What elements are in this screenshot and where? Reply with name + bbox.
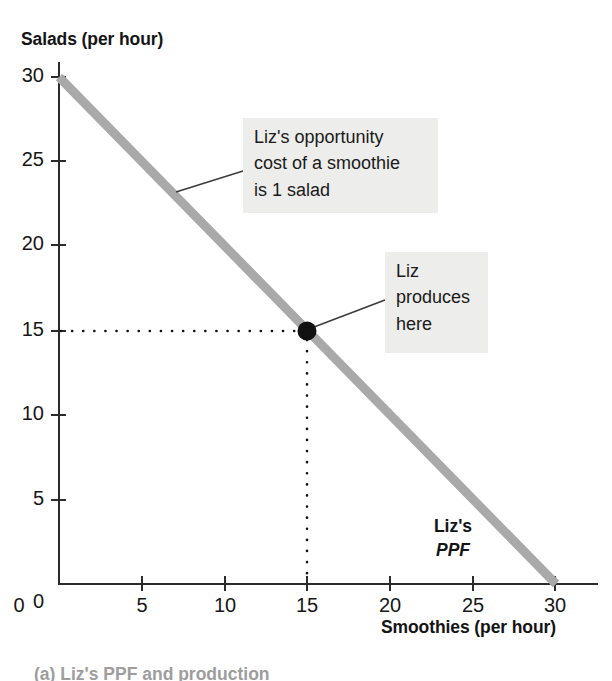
produces-here-line-1: Liz <box>396 258 477 284</box>
x-tick-15 <box>306 576 308 591</box>
produces-here-leader-line <box>314 300 385 327</box>
figure-caption: (a) Liz's PPF and production <box>34 664 270 681</box>
x-axis-title: Smoothies (per hour) <box>381 617 556 638</box>
opportunity-cost-leader-line <box>176 171 243 192</box>
y-tick-label-20: 20 <box>2 232 44 255</box>
x-tick-label-15: 15 <box>287 594 327 617</box>
production-point-marker[interactable] <box>298 322 317 341</box>
ppf-label-owner: Liz's <box>414 514 492 538</box>
y-tick-5 <box>51 499 66 501</box>
ppf-label-abbrev: PPF <box>414 538 492 562</box>
ppf-figure: Salads (per hour) Smoothies (per hour) 3… <box>0 0 612 681</box>
y-tick-20 <box>51 244 66 246</box>
x-tick-20 <box>389 576 391 591</box>
x-tick-5 <box>141 576 143 591</box>
x-tick-10 <box>224 576 226 591</box>
produces-here-line-3: here <box>396 311 477 337</box>
x-tick-25 <box>472 576 474 591</box>
x-tick-30 <box>554 576 556 591</box>
y-tick-15 <box>51 330 66 332</box>
y-tick-label-10: 10 <box>2 402 44 425</box>
y-axis-line <box>58 62 60 585</box>
x-tick-label-10: 10 <box>205 594 245 617</box>
y-tick-label-15: 15 <box>2 318 44 341</box>
opportunity-cost-line-1: Liz's opportunity <box>254 124 427 150</box>
opportunity-cost-callout: Liz's opportunity cost of a smoothie is … <box>243 118 438 213</box>
y-tick-25 <box>51 160 66 162</box>
opportunity-cost-line-2: cost of a smoothie <box>254 150 427 176</box>
x-tick-label-25: 25 <box>453 594 493 617</box>
y-axis-title: Salads (per hour) <box>21 29 163 50</box>
y-tick-label-5: 5 <box>2 487 44 510</box>
y-tick-label-30: 30 <box>2 64 44 87</box>
x-tick-label-20: 20 <box>370 594 410 617</box>
produces-here-line-2: produces <box>396 284 477 310</box>
x-tick-label-0: 0 <box>0 594 39 617</box>
produces-here-callout: Liz produces here <box>385 252 488 353</box>
y-tick-label-25: 25 <box>2 148 44 171</box>
ppf-curve-label: Liz's PPF <box>414 514 492 562</box>
x-tick-label-30: 30 <box>535 594 575 617</box>
opportunity-cost-line-3: is 1 salad <box>254 177 427 203</box>
x-axis-line <box>58 583 598 585</box>
x-tick-label-5: 5 <box>122 594 162 617</box>
y-tick-30 <box>51 76 66 78</box>
y-tick-10 <box>51 414 66 416</box>
